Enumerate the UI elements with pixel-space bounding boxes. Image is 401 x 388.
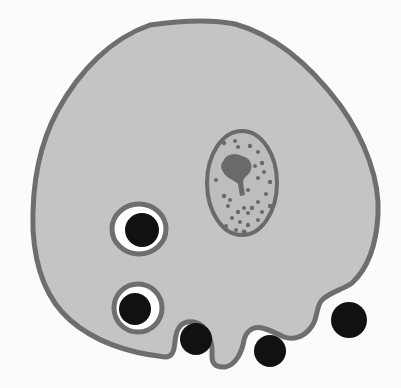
food-vacuole-1 (112, 204, 166, 254)
particle-outside-1 (254, 335, 286, 367)
engulfed-particle (125, 213, 159, 247)
diagram-canvas (0, 0, 401, 388)
particle-being-engulfed (180, 323, 212, 355)
food-vacuole-2 (114, 284, 162, 332)
engulfed-particle (119, 293, 151, 325)
nucleus (207, 131, 277, 235)
phagocytosis-diagram (0, 0, 401, 388)
cell-body (33, 21, 378, 367)
particle-outside-2 (331, 302, 367, 338)
